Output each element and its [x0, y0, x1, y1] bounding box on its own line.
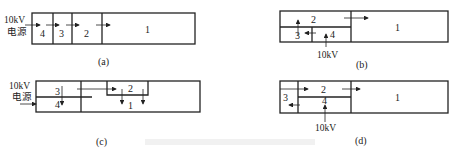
panel-d-room-2: 2	[321, 84, 326, 95]
panel-b-caption: (b)	[356, 59, 368, 71]
panel-a-source-line2: 电源	[7, 26, 27, 37]
panel-b-room-1: 1	[395, 22, 400, 33]
panel-c-caption: (c)	[96, 136, 107, 148]
panel-d-caption: (d)	[355, 135, 367, 147]
panel-b	[280, 11, 448, 42]
panel-c-source-line2: 电源	[12, 91, 32, 102]
panel-b-source: 10kV	[317, 50, 338, 60]
panel-b-room-2: 2	[311, 14, 316, 25]
panel-c-room-3: 3	[55, 86, 60, 97]
panel-d-room-3: 3	[283, 92, 288, 103]
panel-d-room-1: 1	[395, 92, 400, 103]
panel-c-room-4: 4	[55, 99, 60, 110]
panel-a-room-4: 4	[40, 28, 45, 39]
substation-layout-diagram: 10kV 电源 4 3 2 1 (a) 2 3 4 1 10kV (b) 10k…	[0, 0, 451, 149]
panel-d-source: 10kV	[315, 123, 336, 133]
panel-a-room-3: 3	[59, 28, 64, 39]
panel-a	[32, 13, 195, 44]
panel-b-room-4: 4	[330, 29, 335, 40]
panel-c	[36, 81, 200, 112]
panel-b-room-3: 3	[295, 30, 300, 41]
panel-a-room-1: 1	[145, 24, 150, 35]
panel-c-room-1: 1	[128, 100, 133, 111]
panel-a-room-2: 2	[84, 28, 89, 39]
panel-a-source-line1: 10kV	[4, 15, 25, 25]
panel-c-room-2: 2	[128, 83, 133, 94]
panel-d	[280, 81, 448, 113]
panel-c-source-line1: 10kV	[9, 81, 30, 91]
panel-d-room-4: 4	[322, 95, 327, 106]
panel-a-caption: (a)	[98, 56, 109, 68]
